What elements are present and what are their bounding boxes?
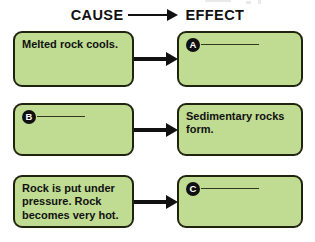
effect-box-2-text: Sedimentary rocks form. <box>186 110 294 137</box>
effect-header-label: EFFECT <box>185 8 244 23</box>
cause-box-1[interactable]: Melted rock cools. <box>13 31 134 87</box>
row-2-arrow-icon <box>134 123 178 137</box>
scan-artifact <box>258 0 261 4</box>
row-3-arrow-icon <box>134 195 178 209</box>
right-arrow-icon <box>128 9 180 21</box>
cause-box-1-text: Melted rock cools. <box>22 38 125 51</box>
cause-box-2-blank: B <box>22 110 125 124</box>
marker-b: B <box>22 110 36 124</box>
answer-blank-a[interactable] <box>201 44 259 45</box>
diagram-header: CAUSE EFFECT <box>0 5 315 25</box>
marker-c: C <box>186 182 200 196</box>
answer-blank-b[interactable] <box>37 116 85 117</box>
scan-artifact <box>205 0 231 2</box>
effect-box-3[interactable]: C <box>177 175 303 228</box>
cause-box-3[interactable]: Rock is put under pressure. Rock becomes… <box>13 175 134 228</box>
cause-effect-diagram: CAUSE EFFECT Melted rock cools. A B Sedi… <box>0 0 315 242</box>
cause-header-label: CAUSE <box>71 8 124 23</box>
marker-a: A <box>186 38 200 52</box>
scan-artifact <box>246 1 251 4</box>
effect-box-3-blank: C <box>186 182 294 196</box>
cause-box-3-text: Rock is put under pressure. Rock becomes… <box>22 182 125 222</box>
cause-box-2[interactable]: B <box>13 103 134 156</box>
answer-blank-c[interactable] <box>201 188 259 189</box>
effect-box-1-blank: A <box>186 38 294 52</box>
effect-box-2[interactable]: Sedimentary rocks form. <box>177 103 303 156</box>
effect-box-1[interactable]: A <box>177 31 303 87</box>
row-1-arrow-icon <box>134 52 178 66</box>
